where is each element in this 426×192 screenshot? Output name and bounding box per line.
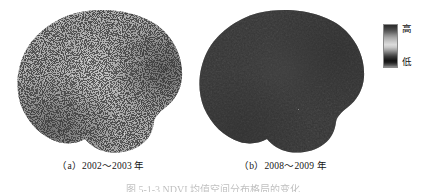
legend-label-high: 高 [402,24,424,34]
raster-map-a [14,8,188,160]
colorbar-swatches [384,25,397,67]
legend-colorbar: 高 低 [381,24,425,70]
figure-container: （a）2002～2003 年 [0,0,426,192]
legend-label-low: 低 [402,57,424,67]
subcaption-panel-a: （a）2002～2003 年 [14,160,188,173]
map-panel-b [196,8,370,160]
figure-caption: 图 5-1-3 NDVI 均值空间分布格局的变化 [0,183,426,192]
colorbar-gradient-bar [383,24,398,68]
subcaption-panel-b: （b）2008～2009 年 [196,160,370,173]
map-panel-a [14,8,188,160]
raster-map-b [196,8,370,160]
